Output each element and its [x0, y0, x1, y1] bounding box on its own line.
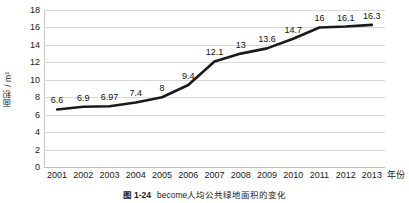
data-point-label: 14.7	[284, 26, 302, 35]
figure-caption-text: become人均公共绿地面积的变化	[157, 190, 286, 200]
y-tick-label: 4	[14, 128, 40, 137]
series-line	[44, 10, 385, 167]
data-point-label: 12.1	[206, 48, 224, 57]
x-axis-line	[44, 167, 385, 168]
x-tick-label: 2002	[73, 170, 93, 181]
x-tick-label: 2004	[126, 170, 146, 181]
line-chart: 面积 / m² 024681012141618 6.66.96.977.489.…	[0, 0, 409, 186]
x-tick-label: 2006	[178, 170, 198, 181]
data-point-label: 13.6	[258, 35, 276, 44]
x-tick-label: 2012	[336, 170, 356, 181]
figure-container: 面积 / m² 024681012141618 6.66.96.977.489.…	[0, 0, 409, 203]
data-point-label: 16.1	[337, 14, 355, 23]
x-tick-label: 2011	[310, 170, 329, 181]
data-point-label: 6.6	[51, 96, 64, 105]
data-point-label: 16	[314, 14, 324, 23]
x-tick-label: 2001	[47, 170, 67, 181]
data-point-label: 13	[236, 41, 246, 50]
x-axis-title: 年份	[387, 170, 405, 181]
y-tick-label: 14	[14, 40, 40, 49]
x-tick-label: 2013	[362, 170, 382, 181]
x-tick-label: 2005	[152, 170, 172, 181]
y-tick-label: 0	[14, 163, 40, 172]
figure-caption: 图 1-24become人均公共绿地面积的变化	[0, 190, 409, 201]
data-point-label: 16.3	[363, 12, 381, 21]
data-point-label: 6.9	[77, 94, 90, 103]
data-point-label: 6.97	[101, 93, 119, 102]
data-point-label: 9.4	[182, 72, 195, 81]
y-tick-label: 2	[14, 145, 40, 154]
y-tick-label: 8	[14, 93, 40, 102]
x-tick-label: 2007	[204, 170, 224, 181]
figure-caption-number: 图 1-24	[123, 190, 151, 200]
y-tick-label: 6	[14, 110, 40, 119]
x-tick-label: 2008	[231, 170, 251, 181]
x-tick-label: 2010	[283, 170, 303, 181]
y-tick-label: 10	[14, 75, 40, 84]
y-tick-label: 12	[14, 58, 40, 67]
data-point-label: 8	[160, 84, 165, 93]
y-tick-label: 18	[14, 6, 40, 15]
x-tick-label: 2003	[100, 170, 120, 181]
x-tick-label: 2009	[257, 170, 277, 181]
y-axis-tick-labels: 024681012141618	[14, 0, 40, 170]
y-tick-label: 16	[14, 23, 40, 32]
data-point-label: 7.4	[130, 89, 143, 98]
x-axis-tick-labels: 2001200220032004200520062007200820092010…	[44, 170, 385, 184]
plot-area: 6.66.96.977.489.412.11313.614.71616.116.…	[44, 10, 385, 167]
